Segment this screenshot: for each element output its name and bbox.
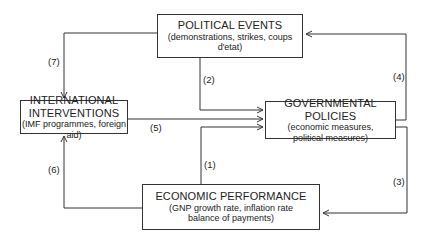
edge-7-label: (7) bbox=[48, 56, 60, 67]
governmental-policies-subtitle-2: political measures) bbox=[293, 133, 368, 143]
edge-3-label: (3) bbox=[393, 176, 405, 187]
edge-2-label: (2) bbox=[203, 74, 215, 85]
economic-performance-subtitle-1: (GNP growth rate, inflation rate bbox=[169, 203, 293, 213]
edge-6-label: (6) bbox=[48, 164, 60, 175]
economic-performance-node: ECONOMIC PERFORMANCE (GNP growth rate, i… bbox=[142, 184, 320, 230]
political-events-title: POLITICAL EVENTS bbox=[178, 19, 283, 32]
edge-4-label: (4) bbox=[393, 71, 405, 82]
edge-6-arrow bbox=[64, 136, 142, 208]
governmental-policies-node: GOVERNMENTAL POLICIES (economic measures… bbox=[265, 101, 396, 139]
edge-5-label: (5) bbox=[150, 122, 162, 133]
political-events-subtitle: (demonstrations, strikes, coups d'etat) bbox=[158, 32, 302, 53]
international-interventions-title-2: INTERVENTIONS bbox=[29, 107, 119, 120]
edge-1-label: (1) bbox=[204, 159, 216, 170]
edge-1-arrow bbox=[201, 127, 263, 184]
edge-7-arrow bbox=[64, 33, 157, 98]
international-interventions-subtitle: (IMF programmes, foreign aid) bbox=[21, 119, 127, 140]
economic-performance-subtitle-2: balance of payments) bbox=[188, 213, 274, 223]
international-interventions-title-1: INTERNATIONAL bbox=[30, 94, 119, 107]
governmental-policies-subtitle-1: (economic measures, bbox=[287, 122, 373, 132]
political-events-node: POLITICAL EVENTS (demonstrations, strike… bbox=[157, 14, 303, 58]
international-interventions-node: INTERNATIONAL INTERVENTIONS (IMF program… bbox=[20, 100, 128, 134]
governmental-policies-title: GOVERNMENTAL POLICIES bbox=[266, 97, 395, 122]
economic-performance-title: ECONOMIC PERFORMANCE bbox=[155, 190, 306, 203]
